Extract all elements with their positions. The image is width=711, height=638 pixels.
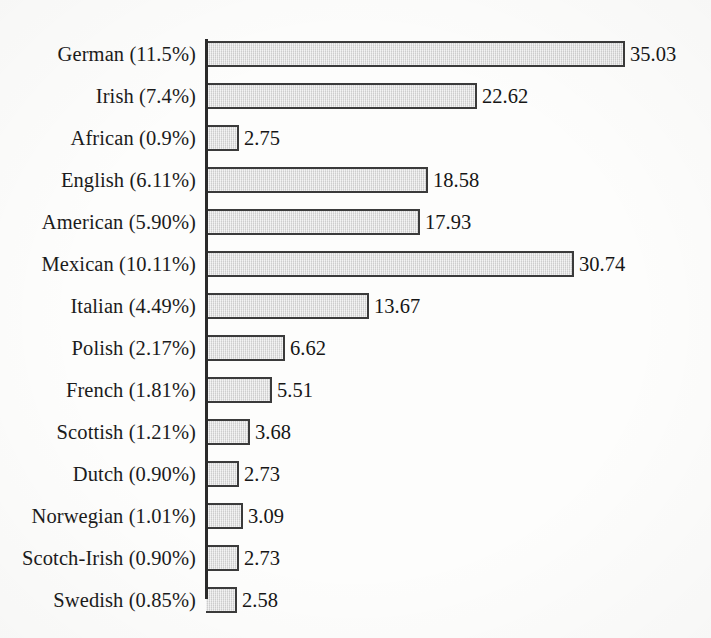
bar-row: Italian (4.49%)13.67 <box>0 285 711 327</box>
bar-value-label: 3.09 <box>243 503 284 529</box>
bar-track: 30.74 <box>206 251 711 277</box>
bar-french <box>206 377 272 403</box>
bar-value-label: 35.03 <box>625 41 676 67</box>
category-label: Mexican (10.11%) <box>0 251 196 277</box>
bar-value-label: 6.62 <box>285 335 326 361</box>
category-label: German (11.5%) <box>0 41 196 67</box>
bar-italian <box>206 293 369 319</box>
bar-track: 5.51 <box>206 377 711 403</box>
category-label: Irish (7.4%) <box>0 83 196 109</box>
bar-track: 18.58 <box>206 167 711 193</box>
bar-mexican <box>206 251 574 277</box>
bar-norwegian <box>206 503 243 529</box>
bar-row: Irish (7.4%)22.62 <box>0 75 711 117</box>
category-label: American (5.90%) <box>0 209 196 235</box>
bar-value-label: 18.58 <box>428 167 479 193</box>
bar-track: 6.62 <box>206 335 711 361</box>
category-axis-line <box>205 39 208 599</box>
bar-dutch <box>206 461 239 487</box>
bar-polish <box>206 335 285 361</box>
bar-row: English (6.11%)18.58 <box>0 159 711 201</box>
bar-value-label: 2.75 <box>239 125 280 151</box>
bar-track: 2.75 <box>206 125 711 151</box>
bar-row: Norwegian (1.01%)3.09 <box>0 495 711 537</box>
bar-row: Dutch (0.90%)2.73 <box>0 453 711 495</box>
category-label: French (1.81%) <box>0 377 196 403</box>
bar-track: 3.09 <box>206 503 711 529</box>
category-label: English (6.11%) <box>0 167 196 193</box>
bar-value-label: 2.58 <box>237 587 278 613</box>
category-label: Dutch (0.90%) <box>0 461 196 487</box>
bar-value-label: 3.68 <box>250 419 291 445</box>
bar-row: African (0.9%)2.75 <box>0 117 711 159</box>
bar-track: 2.73 <box>206 545 711 571</box>
bar-track: 17.93 <box>206 209 711 235</box>
bar-row: Scottish (1.21%)3.68 <box>0 411 711 453</box>
bar-row: Swedish (0.85%)2.58 <box>0 579 711 621</box>
category-label: Swedish (0.85%) <box>0 587 196 613</box>
category-label: Italian (4.49%) <box>0 293 196 319</box>
bar-value-label: 13.67 <box>369 293 420 319</box>
bar-value-label: 5.51 <box>272 377 313 403</box>
bar-row: Polish (2.17%)6.62 <box>0 327 711 369</box>
bar-value-label: 22.62 <box>477 83 528 109</box>
bar-track: 2.73 <box>206 461 711 487</box>
bar-american <box>206 209 420 235</box>
bar-african <box>206 125 239 151</box>
bar-track: 3.68 <box>206 419 711 445</box>
category-label: Norwegian (1.01%) <box>0 503 196 529</box>
category-label: Polish (2.17%) <box>0 335 196 361</box>
bar-track: 13.67 <box>206 293 711 319</box>
bar-english <box>206 167 428 193</box>
category-label: Scotch-Irish (0.90%) <box>0 545 196 571</box>
bar-row: American (5.90%)17.93 <box>0 201 711 243</box>
bar-swedish <box>206 587 237 613</box>
bar-value-label: 2.73 <box>239 461 280 487</box>
bar-track: 2.58 <box>206 587 711 613</box>
bar-value-label: 2.73 <box>239 545 280 571</box>
bar-value-label: 30.74 <box>574 251 625 277</box>
bar-row: French (1.81%)5.51 <box>0 369 711 411</box>
bar-irish <box>206 83 477 109</box>
bar-chart-figure: German (11.5%)35.03Irish (7.4%)22.62Afri… <box>0 0 711 638</box>
plot-area: German (11.5%)35.03Irish (7.4%)22.62Afri… <box>0 0 711 638</box>
bar-track: 22.62 <box>206 83 711 109</box>
bar-scotch-irish <box>206 545 239 571</box>
category-label: Scottish (1.21%) <box>0 419 196 445</box>
bar-row: Mexican (10.11%)30.74 <box>0 243 711 285</box>
bar-scottish <box>206 419 250 445</box>
bar-row: German (11.5%)35.03 <box>0 33 711 75</box>
bar-german <box>206 41 625 67</box>
category-label: African (0.9%) <box>0 125 196 151</box>
bar-value-label: 17.93 <box>420 209 471 235</box>
bar-track: 35.03 <box>206 41 711 67</box>
bar-row: Scotch-Irish (0.90%)2.73 <box>0 537 711 579</box>
